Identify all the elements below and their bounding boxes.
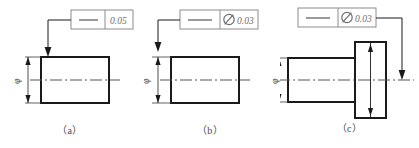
figure-a: 0.05 φ [0, 0, 140, 148]
dim-arrow-bottom-a [25, 95, 30, 103]
dim-arrow-top-a [25, 57, 30, 65]
tolerance-value-a: 0.05 [110, 16, 127, 26]
leader-arrow-a [45, 47, 52, 57]
figure-a-graphic: 0.05 φ [0, 0, 140, 130]
tolerance-value-b: 0.03 [237, 16, 254, 26]
figure-a-caption: （a） [0, 122, 140, 137]
leader-arrow-c [399, 70, 406, 80]
dim-arrow-top-b [155, 57, 160, 65]
figure-b-caption: （b） [140, 122, 280, 137]
figure-b-graphic: 0.03 φ [140, 0, 280, 130]
drawing-sheet: 0.05 φ [0, 0, 419, 148]
figure-c: 0.03 [280, 0, 419, 148]
feature-control-frame-b[interactable]: 0.03 [180, 10, 258, 29]
leader-line-b [155, 20, 180, 52]
leader-arrow-b [155, 42, 162, 52]
feature-control-frame-c[interactable]: 0.03 [298, 8, 376, 27]
figure-c-caption: （c） [280, 120, 419, 135]
tolerance-value-c: 0.03 [355, 14, 372, 24]
diameter-dimension-phi-c: φ [269, 78, 280, 84]
leader-line-a [45, 20, 71, 57]
figure-c-graphic: 0.03 [280, 0, 419, 130]
diameter-dimension-phi-a: φ [11, 78, 22, 84]
diameter-dimension-phi-b: φ [140, 78, 151, 84]
figure-b: 0.03 φ [140, 0, 280, 148]
feature-control-frame-a[interactable]: 0.05 [71, 10, 133, 29]
dim-arrow-bottom-b [155, 95, 160, 103]
